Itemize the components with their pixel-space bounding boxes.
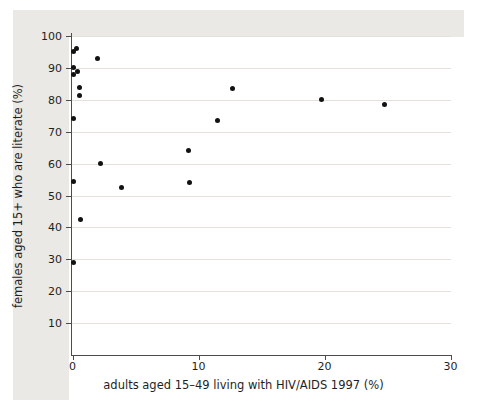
x-tick-label-20: 20 — [310, 360, 340, 373]
data-point — [74, 46, 79, 51]
chart-layer: 1020304050607080901000102030 — [0, 0, 487, 417]
y-tick-label-40: 40 — [28, 221, 62, 234]
gridline-y-80 — [71, 100, 451, 101]
y-axis-title: females aged 15+ who are literate (%) — [11, 46, 25, 346]
gridline-y-60 — [71, 164, 451, 165]
y-tick-70 — [66, 132, 71, 133]
y-tick-90 — [66, 68, 71, 69]
data-point — [230, 86, 235, 91]
data-point — [215, 118, 220, 123]
y-tick-20 — [66, 291, 71, 292]
x-tick-label-0: 0 — [58, 360, 88, 373]
gridline-y-10 — [71, 323, 451, 324]
y-tick-100 — [66, 36, 71, 37]
scatter-plot-figure: 1020304050607080901000102030 adults aged… — [0, 0, 487, 417]
y-tick-10 — [66, 323, 71, 324]
y-tick-label-50: 50 — [28, 190, 62, 203]
data-point — [78, 217, 83, 222]
y-axis-line — [71, 33, 72, 356]
y-tick-label-80: 80 — [28, 94, 62, 107]
data-point — [71, 116, 76, 121]
x-tick-label-10: 10 — [184, 360, 214, 373]
gridline-y-70 — [71, 132, 451, 133]
gridline-y-30 — [71, 259, 451, 260]
data-point — [187, 180, 192, 185]
x-axis-line — [71, 355, 452, 356]
gridline-y-50 — [71, 196, 451, 197]
x-axis-title: adults aged 15–49 living with HIV/AIDS 1… — [0, 378, 487, 392]
data-point — [77, 93, 82, 98]
data-point — [98, 161, 103, 166]
data-point — [77, 85, 82, 90]
data-point — [382, 102, 387, 107]
data-point — [71, 260, 76, 265]
y-tick-60 — [66, 164, 71, 165]
gridline-y-100 — [71, 36, 451, 37]
y-tick-label-20: 20 — [28, 285, 62, 298]
y-tick-40 — [66, 227, 71, 228]
y-tick-label-30: 30 — [28, 253, 62, 266]
x-tick-label-30: 30 — [436, 360, 466, 373]
data-point — [71, 72, 76, 77]
y-tick-label-60: 60 — [28, 158, 62, 171]
data-point — [95, 56, 100, 61]
data-point — [119, 185, 124, 190]
y-tick-label-70: 70 — [28, 126, 62, 139]
y-tick-30 — [66, 259, 71, 260]
y-tick-label-100: 100 — [28, 30, 62, 43]
y-tick-label-10: 10 — [28, 317, 62, 330]
y-tick-80 — [66, 100, 71, 101]
gridline-y-20 — [71, 291, 451, 292]
gridline-y-90 — [71, 68, 451, 69]
data-point — [186, 148, 191, 153]
gridline-y-40 — [71, 227, 451, 228]
y-tick-50 — [66, 196, 71, 197]
data-point — [71, 179, 76, 184]
y-tick-label-90: 90 — [28, 62, 62, 75]
data-point — [319, 97, 324, 102]
